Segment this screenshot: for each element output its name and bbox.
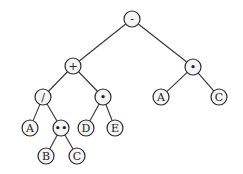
tree-node: •• bbox=[53, 120, 69, 136]
tree-node: A bbox=[22, 120, 38, 136]
tree-edge bbox=[79, 72, 98, 92]
node-label: • bbox=[100, 91, 107, 104]
tree-edge bbox=[167, 72, 187, 91]
tree-edge bbox=[90, 104, 99, 121]
node-label: B bbox=[42, 150, 50, 163]
node-label: • bbox=[190, 61, 197, 74]
node-label: E bbox=[111, 122, 119, 135]
tree-edge bbox=[33, 104, 40, 120]
tree-node: B bbox=[38, 148, 54, 164]
tree-node: • bbox=[95, 89, 111, 105]
tree-edge bbox=[138, 24, 186, 62]
node-label: A bbox=[25, 122, 35, 135]
expression-tree: -+•/•ACA••DEBC bbox=[0, 0, 243, 174]
tree-node: A bbox=[153, 89, 169, 105]
node-label: C bbox=[73, 150, 81, 163]
tree-node: C bbox=[211, 89, 227, 105]
tree-edge bbox=[65, 135, 73, 149]
tree-edge bbox=[50, 135, 57, 149]
tree-node: / bbox=[35, 89, 51, 105]
tree-node: • bbox=[185, 59, 201, 75]
node-label: •• bbox=[55, 122, 68, 135]
tree-edge bbox=[198, 73, 214, 91]
tree-edge bbox=[49, 72, 68, 92]
node-label: - bbox=[130, 13, 134, 26]
tree-node: E bbox=[107, 120, 123, 136]
tree-edge bbox=[47, 104, 57, 121]
tree-edge bbox=[106, 104, 112, 120]
tree-node: D bbox=[78, 120, 94, 136]
node-label: / bbox=[41, 91, 45, 104]
node-label: + bbox=[68, 60, 77, 73]
tree-edge bbox=[79, 24, 125, 61]
node-label: D bbox=[82, 122, 91, 135]
node-label: C bbox=[215, 91, 223, 104]
tree-node: - bbox=[124, 11, 140, 27]
node-label: A bbox=[156, 91, 166, 104]
tree-node: C bbox=[69, 148, 85, 164]
tree-node: + bbox=[65, 58, 81, 74]
